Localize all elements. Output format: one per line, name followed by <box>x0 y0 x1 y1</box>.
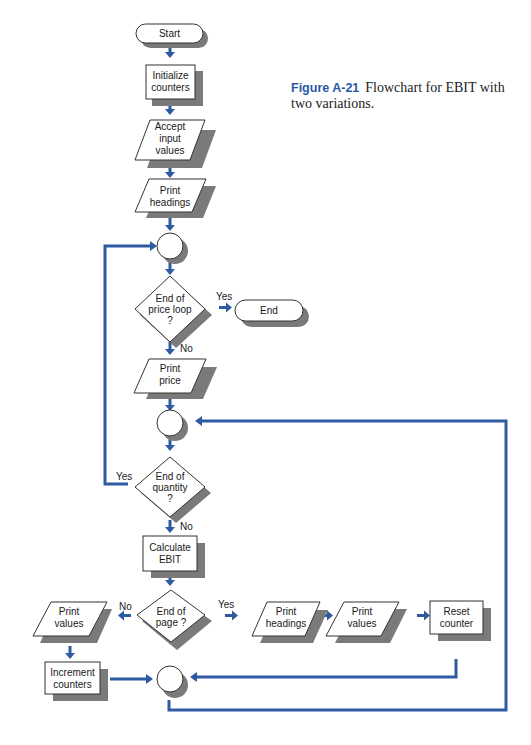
accept-input-values-io: Accept input values <box>135 120 216 168</box>
accept-label-2: input <box>159 133 181 144</box>
print-price-label-1: Print <box>160 363 181 374</box>
price-loop-label-1: End of <box>156 293 185 304</box>
quantity-label-2: quantity <box>152 482 187 493</box>
page-yes-label: Yes <box>218 599 234 610</box>
print-price-label-2: price <box>159 375 181 386</box>
print-values-left-io: Print values <box>33 602 112 643</box>
price-loop-label-2: price loop <box>148 304 192 315</box>
end-label: End <box>260 305 278 316</box>
end-terminator: End <box>235 300 309 327</box>
calculate-label-1: Calculate <box>149 542 191 553</box>
reset-label-2: counter <box>440 618 474 629</box>
initialize-label-1: Initialize <box>152 70 189 81</box>
values-right-label-1: Print <box>352 606 373 617</box>
headings2-label-2: headings <box>266 618 307 629</box>
end-of-price-loop-decision: End of price loop ? <box>135 276 212 348</box>
quantity-yes-label: Yes <box>116 471 132 482</box>
accept-label-3: values <box>156 145 185 156</box>
accept-label-1: Accept <box>155 121 186 132</box>
calculate-ebit-process: Calculate EBIT <box>143 536 205 578</box>
print-headings-bottom-io: Print headings <box>252 602 328 643</box>
price-loop-label-3: ? <box>167 315 173 326</box>
increment-label-2: counters <box>53 679 91 690</box>
calculate-label-2: EBIT <box>159 554 181 565</box>
end-of-quantity-decision: End of quantity ? <box>135 457 211 523</box>
quantity-no-label: No <box>180 521 193 532</box>
print-values-right-io: Print values <box>326 602 407 643</box>
ebit-flowchart: Start Initialize counters Accept input v… <box>0 0 531 745</box>
start-label: Start <box>159 28 180 39</box>
headings1-label-1: Print <box>160 185 181 196</box>
quantity-yes-loop <box>105 246 150 484</box>
price-loop-no-label: No <box>180 343 193 354</box>
page-no-label: No <box>119 601 132 612</box>
flow-arrows <box>65 45 430 659</box>
headings1-label-2: headings <box>150 197 191 208</box>
reset-loop <box>197 659 456 677</box>
print-headings-io: Print headings <box>135 179 216 218</box>
figure-caption: Figure A-21Flowchart for EBIT with two v… <box>291 80 526 111</box>
reset-label-1: Reset <box>443 606 469 617</box>
print-price-io: Print price <box>134 359 217 399</box>
page-label-2: page ? <box>156 617 187 628</box>
reset-counter-process: Reset counter <box>430 601 491 641</box>
start-terminator: Start <box>136 24 208 48</box>
connector-price-loop <box>157 233 188 264</box>
end-of-page-decision: End of page ? <box>137 590 212 650</box>
increment-counters-process: Increment counters <box>45 662 108 701</box>
page-label-1: End of <box>157 606 186 617</box>
connector-page-loop <box>157 666 188 698</box>
figure-label: Figure A-21 <box>291 81 359 95</box>
headings2-label-1: Print <box>276 606 297 617</box>
quantity-label-1: End of <box>156 471 185 482</box>
increment-label-1: Increment <box>50 667 95 678</box>
quantity-label-3: ? <box>167 493 173 504</box>
initialize-counters-process: Initialize counters <box>146 65 203 106</box>
price-loop-yes-label: Yes <box>216 291 232 302</box>
values-right-label-2: values <box>348 618 377 629</box>
initialize-label-2: counters <box>151 82 189 93</box>
values-left-label-2: values <box>55 618 84 629</box>
values-left-label-1: Print <box>59 606 80 617</box>
connector-quantity-loop <box>157 410 188 441</box>
